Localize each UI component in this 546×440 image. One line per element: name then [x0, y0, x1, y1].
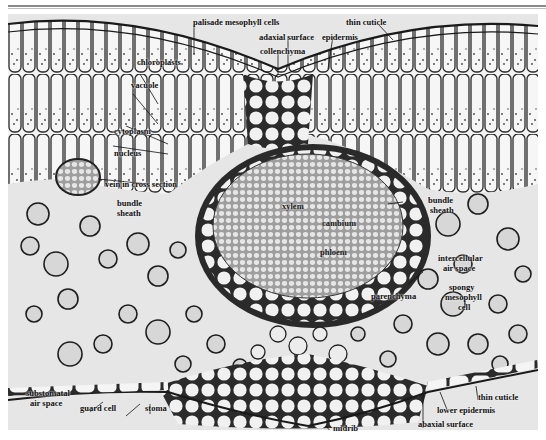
- label-spongy-line2: mesophyll: [445, 293, 482, 302]
- leaf-cross-section-micrograph: [8, 14, 538, 430]
- label-bundle-sheath-right-line2: sheath: [430, 206, 454, 215]
- label-adaxial-surface: adaxial surface: [259, 33, 314, 42]
- label-abaxial-surface: abaxial surface: [418, 420, 473, 429]
- label-lower-epidermis: lower epidermis: [437, 406, 495, 415]
- label-vacuole: vacuole: [131, 81, 158, 90]
- label-substomatal-line2: air space: [30, 399, 62, 408]
- label-intercellular-line2: air space: [443, 264, 475, 273]
- top-rule-thin: [8, 8, 546, 9]
- label-intercellular-line1: intercellular: [438, 254, 483, 263]
- label-phloem: phloem: [320, 248, 347, 257]
- label-stoma: stoma: [145, 404, 167, 413]
- label-parenchyma: parenchyma: [371, 292, 416, 301]
- label-guard-cell: guard cell: [80, 404, 116, 413]
- label-bundle-sheath-left-line1: bundle: [117, 199, 142, 208]
- label-chloroplasts: chloroplasts: [137, 58, 181, 67]
- label-bundle-sheath-right-line1: bundle: [428, 196, 453, 205]
- label-epidermis: epidermis: [322, 33, 358, 42]
- label-thin-cuticle-bottom: thin cuticle: [478, 393, 518, 402]
- label-thin-cuticle-top: thin cuticle: [346, 18, 386, 27]
- label-collenchyma: collenchyma: [260, 47, 305, 56]
- label-xylem: xylem: [282, 202, 304, 211]
- label-palisade-mesophyll-cells: palisade mesophyll cells: [193, 18, 279, 27]
- label-substomatal-line1: substomatal: [26, 389, 70, 398]
- label-midrib: midrib: [333, 424, 358, 433]
- label-nucleus: nucleus: [114, 149, 141, 158]
- label-cambium: cambium: [322, 219, 356, 228]
- label-spongy-line3: cell: [458, 303, 470, 312]
- label-cytoplasm: cytoplasm: [114, 127, 151, 136]
- top-rule: [8, 5, 546, 7]
- label-bundle-sheath-left-line2: sheath: [117, 209, 141, 218]
- micrograph-drawing: [8, 14, 538, 430]
- label-vein-in-cross-section: vein in cross section: [105, 180, 177, 189]
- label-spongy-line1: spongy: [449, 283, 475, 292]
